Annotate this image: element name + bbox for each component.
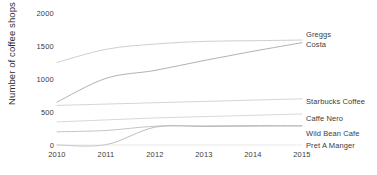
series-label-greggs: Greggs [306,30,331,39]
series-line-greggs [57,40,302,62]
data-lines [57,40,302,146]
series-label-costa: Costa [306,40,326,49]
series-label-starbucks-coffee: Starbucks Coffee [306,97,365,106]
series-label-wild-bean-cafe: Wild Bean Cafe [306,129,360,138]
series-line-costa [57,43,302,102]
series-line-starbucks-coffee [57,99,302,106]
series-line-pret-a-manger [57,126,302,146]
series-label-pret-a-manger: Pret A Manger [306,141,355,150]
line-chart: Number of coffee shops 0500100015002000 … [0,0,377,175]
series-line-caffe-nero [57,114,302,122]
series-label-caffe-nero: Caffe Nero [306,114,343,123]
